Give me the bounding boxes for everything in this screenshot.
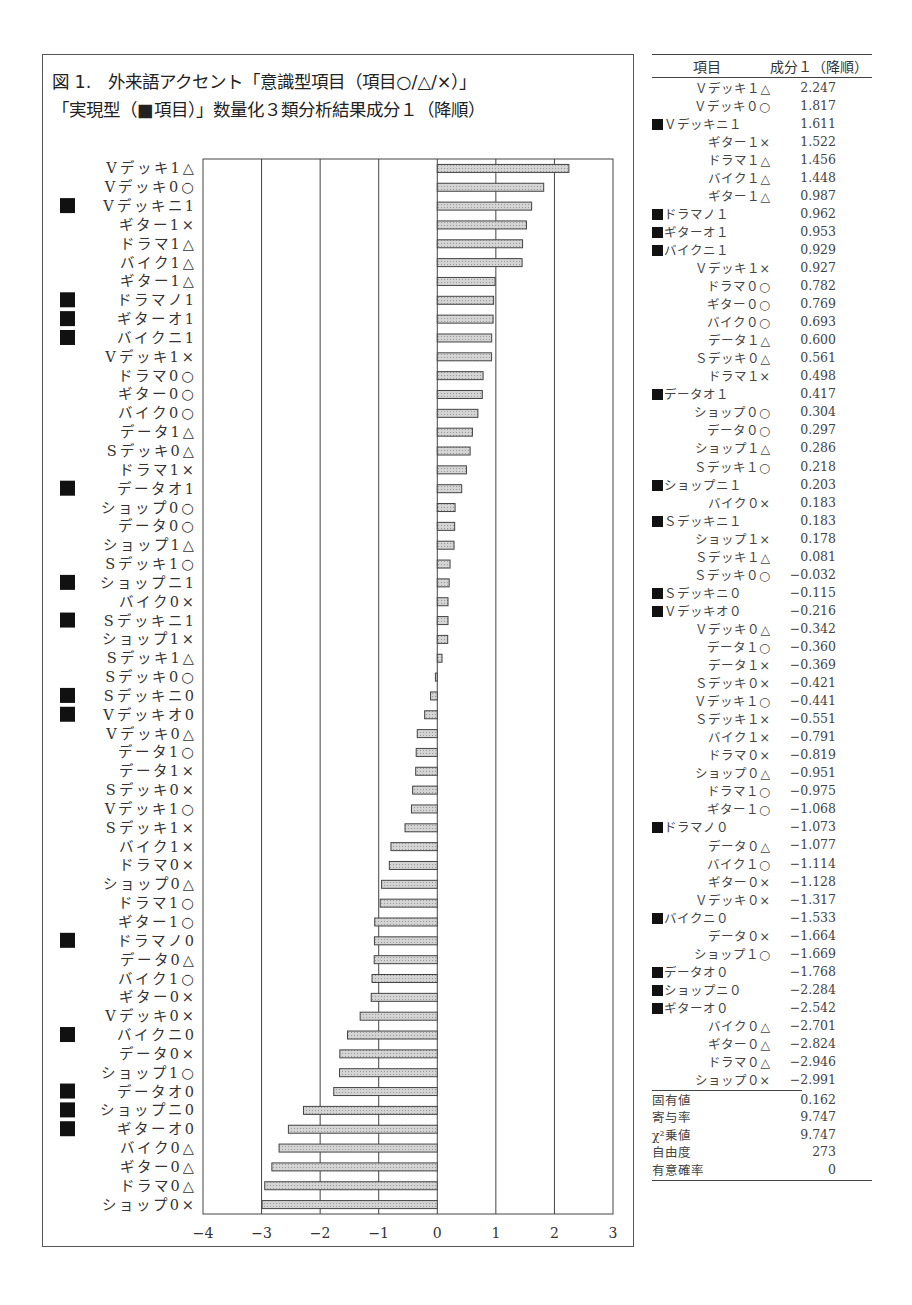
table-row-value: −0.791 — [770, 729, 872, 744]
table-row-value: 1.448 — [770, 170, 872, 185]
bar — [431, 692, 438, 700]
table-row-item: ギター１× — [652, 132, 770, 151]
category-label: ギターオ0 — [117, 1121, 197, 1137]
category-label: Vデッキ1× — [104, 348, 197, 365]
category-label: ギター0○ — [118, 386, 197, 402]
table-row-item-text: ギター１△ — [708, 189, 770, 204]
bar — [425, 711, 438, 719]
category-label: バイク1○ — [118, 971, 197, 987]
table-row-item: データ０× — [652, 926, 770, 945]
table-row: バイク０○0.693 — [652, 313, 872, 331]
table-row: ドラマ０×−0.819 — [652, 746, 872, 764]
table-row-item: データ１○ — [652, 637, 770, 656]
table-row-value: 0.203 — [770, 477, 872, 492]
table-row: データオ１0.417 — [652, 385, 872, 403]
table-row-value: 1.817 — [770, 98, 872, 113]
real-type-marker — [652, 913, 663, 924]
table-row-item: Ｖデッキ１× — [652, 258, 770, 277]
category-label: データ1○ — [118, 743, 197, 760]
table-row-item-text: バイク０△ — [708, 1019, 770, 1034]
stat-name: 固有値 — [652, 1090, 762, 1109]
table-row-item: バイク０× — [652, 493, 770, 512]
category-label: バイク1△ — [120, 255, 197, 271]
bar — [389, 861, 437, 869]
table-row-value: 0.081 — [770, 549, 872, 564]
table-row-item: データ１× — [652, 655, 770, 674]
bar — [437, 202, 531, 210]
table-row-value: −1.073 — [770, 819, 872, 834]
table-row-item: ショップニ０ — [652, 980, 770, 999]
bar — [437, 598, 448, 606]
category-label: ショップニ0 — [100, 1102, 197, 1118]
category-label: ギター1× — [119, 217, 197, 233]
component-table: 項目 成分１（降順） Ｖデッキ１△2.247Ｖデッキ０○1.817Ｖデッキニ１1… — [652, 54, 872, 1181]
table-row-value: 0.600 — [770, 332, 872, 347]
real-type-marker — [652, 389, 663, 400]
table-row-value: −0.975 — [770, 783, 872, 798]
table-row: Ｓデッキ１×−0.551 — [652, 710, 872, 728]
table-row-item-text: データ１△ — [708, 333, 770, 348]
table-row: バイクニ０−1.533 — [652, 908, 872, 926]
table-row: Ｖデッキ１△2.247 — [652, 78, 872, 96]
table-row: バイク１○−1.114 — [652, 854, 872, 872]
table-row-value: −0.342 — [770, 621, 872, 636]
table-row-item: Ｓデッキ０△ — [652, 348, 770, 367]
bar — [437, 259, 522, 267]
stat-name: χ²乗値 — [652, 1125, 762, 1144]
table-row-item: Ｖデッキ０△ — [652, 619, 770, 638]
category-label: Vデッキニ1 — [102, 197, 197, 214]
x-tick-label: −3 — [251, 1225, 272, 1241]
table-row: Ｓデッキニ１0.183 — [652, 511, 872, 529]
x-tick-label: 3 — [609, 1225, 618, 1241]
bar — [437, 372, 483, 380]
table-row-item: ギター０× — [652, 872, 770, 891]
bar — [334, 1088, 438, 1096]
table-row: データ０△−1.077 — [652, 836, 872, 854]
table-row: データ１○−0.360 — [652, 637, 872, 655]
category-label: バイクニ1 — [117, 330, 197, 346]
category-label: データ0○ — [118, 517, 197, 534]
table-row-value: 1.522 — [770, 134, 872, 149]
bar — [375, 918, 438, 926]
table-row-value: −1.114 — [770, 856, 872, 871]
table-row-item: Ｓデッキ１△ — [652, 547, 770, 566]
real-type-marker — [60, 1027, 75, 1042]
bar — [437, 466, 466, 474]
bar — [437, 635, 447, 643]
stat-name: 寄与率 — [652, 1107, 762, 1126]
table-row-value: 0.929 — [770, 242, 872, 257]
bar — [262, 1201, 437, 1209]
table-row-item-text: ギター１× — [708, 135, 770, 150]
bar — [437, 277, 495, 285]
category-label: ドラマ0△ — [120, 1178, 197, 1194]
table-row-value: −0.421 — [770, 675, 872, 690]
table-row: ショップニ１0.203 — [652, 475, 872, 493]
stat-name: 有意確率 — [652, 1160, 762, 1179]
table-row-value: 0.286 — [770, 440, 872, 455]
table-row-value: 0.297 — [770, 422, 872, 437]
bar — [437, 654, 442, 662]
table-row-value: −2.542 — [770, 1000, 872, 1015]
table-row-item: Ｓデッキニ０ — [652, 583, 770, 602]
table-row-item-text: ショップニ１ — [664, 478, 742, 493]
table-row-item-text: ドラマ０△ — [708, 1055, 770, 1070]
table-row-item: ギターオ０ — [652, 998, 770, 1017]
table-row-item-text: データ１○ — [707, 640, 770, 655]
table-row-value: −0.441 — [770, 693, 872, 708]
table-row-item-text: データ０○ — [707, 423, 770, 438]
category-label: データオ0 — [117, 1083, 197, 1100]
table-row: バイク１×−0.791 — [652, 728, 872, 746]
table-row-item: ショップ１○ — [652, 944, 770, 963]
table-row-value: 1.611 — [770, 116, 872, 131]
table-row-item-text: Ｓデッキ１○ — [694, 460, 770, 475]
table-row-value: −0.216 — [770, 603, 872, 618]
table-row-item: ショップ１× — [652, 529, 770, 548]
table-row-item: ドラマ０× — [652, 745, 770, 764]
table-row-value: −0.819 — [770, 747, 872, 762]
bar — [304, 1106, 438, 1114]
real-type-marker — [60, 613, 75, 628]
table-row-item: バイク１× — [652, 727, 770, 746]
table-row-item-text: ギターオ０ — [664, 1001, 729, 1016]
table-row-item-text: ショップ０× — [695, 1073, 770, 1088]
table-row-item-text: Ｖデッキ１× — [695, 261, 770, 276]
